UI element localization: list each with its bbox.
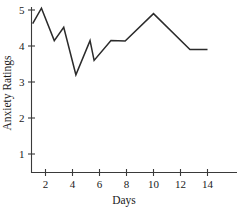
anxiety-ratings-line-chart: 12345 2468101214 Days Anxiety Ratings — [0, 0, 243, 214]
y-tick-label-3: 3 — [19, 76, 25, 88]
y-tick-label-5: 5 — [19, 4, 25, 16]
x-tick-label-12: 12 — [175, 178, 186, 190]
y-tick-labels: 12345 — [19, 4, 25, 160]
x-tick-label-4: 4 — [70, 178, 76, 190]
x-tick-label-10: 10 — [148, 178, 160, 190]
y-tick-label-1: 1 — [19, 148, 25, 160]
x-axis-title: Days — [112, 194, 136, 207]
x-tick-label-8: 8 — [124, 178, 130, 190]
y-axis-title: Anxiety Ratings — [1, 55, 14, 131]
x-tick-label-6: 6 — [97, 178, 103, 190]
x-tick-label-2: 2 — [43, 178, 49, 190]
chart-canvas: 12345 2468101214 Days Anxiety Ratings — [0, 0, 243, 214]
x-tick-labels: 2468101214 — [43, 178, 214, 190]
x-tick-label-14: 14 — [202, 178, 214, 190]
data-line-anxiety-ratings — [33, 8, 208, 75]
y-tick-label-2: 2 — [19, 112, 25, 124]
y-tick-label-4: 4 — [19, 40, 25, 52]
